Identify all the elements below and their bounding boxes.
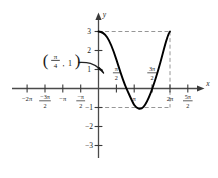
fraction-numerator: 3π <box>149 65 156 72</box>
graph-figure: x y 3 2 1 −1 −2 −3 −2π −3π 2 −π −π 2 π 2 <box>0 0 218 178</box>
annotation-fraction-denominator: 4 <box>54 62 58 70</box>
fraction-denominator: 2 <box>79 102 82 109</box>
annotation-comma: , <box>63 59 65 68</box>
y-tick-label-neg3: −3 <box>85 141 93 150</box>
fraction-denominator: 2 <box>186 102 189 109</box>
x-tick-label-neg-pi: −π <box>59 95 67 102</box>
fraction-denominator: 2 <box>151 74 154 81</box>
y-tick-label-3: 3 <box>87 27 91 36</box>
fraction-numerator: 5π <box>185 93 192 100</box>
y-tick-label-2: 2 <box>87 46 91 55</box>
fraction-numerator: −3π <box>40 93 51 100</box>
fraction-denominator: 2 <box>115 74 118 81</box>
x-tick-label-neg-2pi: −2π <box>22 95 33 102</box>
x-tick-label-2pi: 2π <box>167 95 174 102</box>
y-tick-label-1: 1 <box>87 65 91 74</box>
annotation-open-paren: ( <box>43 51 49 70</box>
annotation-fraction-numerator: π <box>54 53 58 61</box>
y-tick-label-neg1: −1 <box>85 103 93 112</box>
coordinate-plane-svg: x y 3 2 1 −1 −2 −3 −2π −3π 2 −π −π 2 π 2 <box>0 0 218 178</box>
x-axis-label: x <box>205 79 210 88</box>
y-tick-label-neg2: −2 <box>85 122 93 131</box>
annotation-y-value: 1 <box>68 59 72 68</box>
fraction-numerator: −π <box>77 93 84 100</box>
annotation-close-paren: ) <box>75 51 81 70</box>
fraction-denominator: 2 <box>43 102 46 109</box>
y-axis-label: y <box>102 10 107 19</box>
